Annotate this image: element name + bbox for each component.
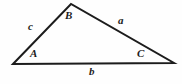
vertex-label-c: C (137, 48, 144, 59)
side-label-b: b (89, 66, 95, 77)
vertex-label-b: B (65, 10, 72, 21)
side-label-c: c (28, 21, 33, 32)
vertex-label-a: A (30, 48, 37, 59)
triangle-figure: c a b A B C (0, 0, 182, 84)
side-label-a: a (118, 15, 124, 26)
